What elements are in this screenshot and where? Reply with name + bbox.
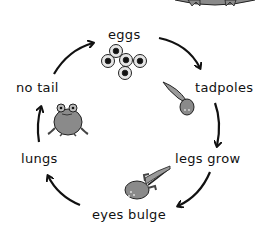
frog-life-cycle-diagram: eggs tadpoles legs grow eyes bulge lungs…	[0, 0, 256, 235]
arrow-lungs-to-no-tail	[38, 107, 41, 142]
arrow-eyes-bulge-to-lungs	[48, 176, 80, 205]
arrow-eggs-to-tadpoles	[159, 38, 200, 68]
stage-label-no-tail: no tail	[16, 81, 59, 94]
arrow-tadpoles-to-legs-grow	[215, 103, 219, 146]
arrow-legs-grow-to-eyes-bulge	[178, 172, 210, 206]
stage-label-legs-grow: legs grow	[175, 152, 240, 165]
stage-label-eyes-bulge: eyes bulge	[92, 208, 166, 221]
adult-frog-partial-icon	[175, 0, 255, 6]
frog-eggs-icon	[102, 45, 147, 80]
young-frog-icon	[48, 104, 88, 136]
tadpole-icon	[163, 82, 194, 115]
arrow-no-tail-to-eggs	[54, 43, 93, 74]
stage-label-tadpoles: tadpoles	[195, 81, 253, 94]
stage-label-eggs: eggs	[108, 28, 140, 41]
tadpole-with-legs-icon	[125, 166, 170, 199]
stage-label-lungs: lungs	[21, 152, 58, 165]
